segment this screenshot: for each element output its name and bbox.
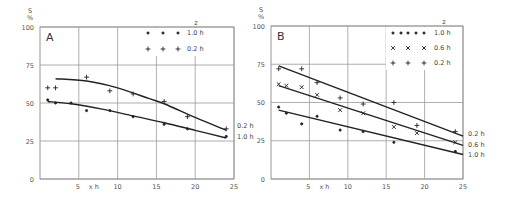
cross-marker-icon [284, 84, 288, 88]
legend-label: 1.0 h [434, 29, 451, 37]
fit-line-0-2h [279, 66, 463, 136]
plus-marker-icon [107, 88, 112, 93]
dot-marker-icon [70, 102, 72, 104]
dot-marker-icon [362, 130, 364, 132]
plus-marker-icon [45, 85, 50, 90]
y-tick-label: 25 [26, 138, 34, 146]
x-axis-label: x h [89, 183, 99, 191]
x-tick-label: 10 [344, 183, 352, 191]
dot-marker-icon [54, 102, 56, 104]
cross-marker-icon [338, 108, 342, 112]
cross-marker-icon [277, 82, 281, 86]
end-label: 1.0 h [237, 133, 254, 141]
series-1-0h [278, 106, 457, 153]
legend-label: 0.2 h [434, 59, 451, 67]
dot-marker-icon [423, 32, 425, 34]
x-axis-label: x h [319, 183, 329, 191]
figure-canvas: 5101520250255075100x hS%Az1.0 h0.2 h1.0 … [0, 0, 508, 199]
dot-marker-icon [339, 129, 341, 131]
dot-marker-icon [393, 141, 395, 143]
x-tick-label: 5 [76, 183, 80, 191]
x-tick-label: 20 [420, 183, 428, 191]
plus-marker-icon [84, 75, 89, 80]
fit-line-1-0h [279, 110, 463, 154]
plus-marker-icon [224, 126, 229, 131]
dot-marker-icon [186, 128, 188, 130]
y-tick-label: 0 [261, 176, 265, 184]
dot-marker-icon [392, 32, 394, 34]
legend-title: z [442, 18, 446, 26]
dot-marker-icon [162, 32, 164, 34]
x-tick-label: 20 [191, 183, 199, 191]
dot-marker-icon [285, 112, 287, 114]
plus-marker-icon [53, 85, 58, 90]
dot-marker-icon [177, 32, 179, 34]
y-tick-label: 100 [253, 23, 265, 31]
dot-marker-icon [109, 110, 111, 112]
dot-marker-icon [163, 123, 165, 125]
chart-panel-a: 5101520250255075100x hS%Az1.0 h0.2 h1.0 … [22, 7, 254, 191]
plus-marker-icon [415, 123, 420, 128]
dot-marker-icon [47, 99, 49, 101]
y-tick-label: 0 [30, 176, 34, 184]
y-tick-label: 50 [26, 100, 34, 108]
fit-line-0-6h [279, 86, 463, 146]
cross-marker-icon [315, 93, 319, 97]
x-tick-label: 25 [230, 183, 238, 191]
plus-marker-icon [338, 96, 343, 101]
dot-marker-icon [278, 106, 280, 108]
x-tick-label: 10 [113, 183, 121, 191]
dot-marker-icon [85, 110, 87, 112]
dot-marker-icon [147, 32, 149, 34]
chart-panel-b: 5101520250255075100x hS%Bz1.0 h0.6 h0.2 … [253, 6, 485, 191]
x-tick-label: 25 [459, 183, 467, 191]
x-tick-label: 15 [152, 183, 160, 191]
y-tick-label: 50 [257, 99, 265, 107]
y-tick-label: 75 [257, 61, 265, 69]
legend-label: 1.0 h [187, 29, 204, 37]
dot-marker-icon [132, 116, 134, 118]
cross-marker-icon [300, 85, 304, 89]
legend-title: z [194, 19, 198, 27]
end-label: 0.6 h [468, 141, 485, 149]
plus-marker-icon [299, 66, 304, 71]
y-axis-unit: % [27, 14, 33, 22]
y-tick-label: 25 [257, 137, 265, 145]
legend-label: 0.2 h [187, 45, 204, 53]
x-tick-label: 15 [382, 183, 390, 191]
dot-marker-icon [415, 32, 417, 34]
end-label: 0.2 h [237, 122, 254, 130]
panel-label: A [46, 31, 54, 44]
x-tick-label: 5 [306, 183, 310, 191]
panel-label: B [277, 30, 285, 43]
dot-marker-icon [301, 123, 303, 125]
dot-marker-icon [316, 115, 318, 117]
y-tick-label: 100 [22, 24, 34, 32]
end-label: 1.0 h [468, 151, 485, 159]
cross-marker-icon [392, 125, 396, 129]
dot-marker-icon [400, 32, 402, 34]
fit-line-0-2h [56, 79, 227, 131]
y-tick-label: 75 [26, 62, 34, 70]
dot-marker-icon [225, 135, 227, 137]
y-axis-unit: % [258, 13, 264, 21]
end-label: 0.2 h [468, 130, 485, 138]
cross-marker-icon [415, 131, 419, 135]
dot-marker-icon [407, 32, 409, 34]
legend-label: 0.6 h [434, 44, 451, 52]
dot-marker-icon [454, 150, 456, 152]
plus-marker-icon [391, 100, 396, 105]
